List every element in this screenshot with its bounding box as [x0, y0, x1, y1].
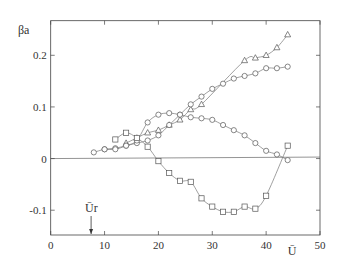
chart: 01020304050-0.100.10.2 βa Ū Ūr — [0, 0, 340, 267]
zero-line — [51, 157, 320, 159]
data-point-circles-rising — [156, 133, 161, 138]
data-point-circles-hump — [145, 120, 150, 125]
data-point-squares — [177, 178, 182, 183]
annotation-label: Ūr — [85, 201, 98, 215]
data-point-circles-hump — [124, 143, 129, 148]
data-point-circles-hump — [167, 111, 172, 116]
x-axis-label: Ū — [288, 244, 297, 258]
data-point-squares — [242, 204, 247, 209]
data-point-circles-rising — [231, 76, 236, 81]
curve-triangles — [126, 35, 288, 143]
x-tick-label: 40 — [261, 239, 273, 251]
markers — [91, 31, 290, 214]
data-point-circles-hump — [253, 140, 258, 145]
data-point-squares — [220, 209, 225, 214]
data-point-circles-hump — [177, 112, 182, 117]
x-tick-label: 0 — [48, 239, 54, 251]
data-point-triangles — [242, 57, 248, 62]
data-point-squares — [124, 130, 129, 135]
data-point-circles-hump — [285, 158, 290, 163]
data-point-circles-rising — [199, 94, 204, 99]
data-point-circles-hump — [274, 152, 279, 157]
data-point-circles-hump — [188, 115, 193, 120]
data-point-squares — [231, 209, 236, 214]
data-point-circles-rising — [188, 102, 193, 107]
data-point-circles-hump — [156, 112, 161, 117]
data-point-circles-rising — [145, 138, 150, 143]
y-axis-label: βa — [18, 23, 30, 37]
x-tick-label: 30 — [207, 239, 219, 251]
data-point-circles-hump — [242, 133, 247, 138]
data-point-circles-rising — [274, 66, 279, 71]
data-point-circles-hump — [199, 116, 204, 121]
data-point-circles-hump — [231, 128, 236, 133]
data-point-circles-rising — [264, 66, 269, 71]
y-tick-label: 0.1 — [33, 101, 47, 113]
data-point-squares — [188, 179, 193, 184]
arrow-head-icon — [89, 229, 93, 234]
data-point-circles-rising — [220, 81, 225, 86]
data-point-circles-rising — [91, 150, 96, 155]
data-point-circles-hump — [113, 147, 118, 152]
annotations: Ūr — [85, 201, 98, 234]
data-point-circles-rising — [210, 86, 215, 91]
curve-circles-hump — [105, 113, 288, 160]
data-point-circles-hump — [264, 148, 269, 153]
data-point-squares — [156, 159, 161, 164]
data-point-circles-rising — [285, 64, 290, 69]
data-point-circles-hump — [102, 147, 107, 152]
ticks: 01020304050-0.100.10.2 — [29, 21, 326, 251]
data-point-squares — [210, 204, 215, 209]
data-point-squares — [167, 170, 172, 175]
data-point-circles-hump — [220, 122, 225, 127]
y-tick-label: 0 — [41, 153, 47, 165]
data-point-circles-rising — [253, 71, 258, 76]
x-tick-label: 10 — [99, 239, 111, 251]
data-point-squares — [253, 206, 258, 211]
x-tick-label: 50 — [315, 239, 327, 251]
y-tick-label: 0.2 — [33, 49, 47, 61]
curves — [94, 35, 288, 213]
data-point-circles-rising — [242, 73, 247, 78]
data-point-triangles — [285, 31, 291, 36]
data-point-triangles — [263, 52, 269, 57]
data-point-squares — [134, 135, 139, 140]
data-point-squares — [264, 193, 269, 198]
data-point-squares — [285, 143, 290, 148]
data-point-squares — [199, 196, 204, 201]
data-point-squares — [145, 144, 150, 149]
data-point-circles-hump — [210, 117, 215, 122]
data-point-circles-rising — [167, 122, 172, 127]
x-tick-label: 20 — [153, 239, 165, 251]
data-point-squares — [113, 137, 118, 142]
y-tick-label: -0.1 — [29, 204, 46, 216]
